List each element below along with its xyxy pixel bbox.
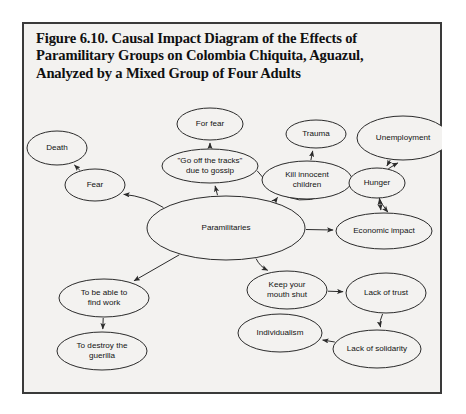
node-label-death: Death: [46, 143, 68, 152]
node-label-economic: Economic impact: [353, 226, 415, 235]
node-label-hunger: Hunger: [364, 178, 391, 187]
node-find_work[interactable]: To be able tofind work: [59, 279, 149, 317]
node-lack_trust[interactable]: Lack of trust: [346, 273, 426, 313]
edge-paramilitaries-to-kill_children: [272, 197, 278, 201]
node-label-kill_children: Kill innocent: [285, 170, 329, 179]
node-destroy[interactable]: To destroy theguerilla: [57, 332, 147, 370]
node-individualism[interactable]: Individualism: [238, 314, 322, 352]
edge-fear-to-death: [74, 165, 79, 170]
edge-unemployment-to-hunger: [387, 160, 390, 166]
node-label-lack_solidarity: Lack of solidarity: [347, 344, 408, 353]
node-label-gossip: due to gossip: [186, 166, 235, 175]
node-label-find_work: find work: [88, 298, 121, 307]
edge-paramilitaries-to-mouth_shut: [256, 259, 268, 271]
edge-lack_trust-to-lack_solidarity: [380, 314, 382, 327]
edge-mouth_shut-to-lack_trust: [328, 291, 343, 292]
node-label-individualism: Individualism: [257, 328, 304, 337]
node-label-unemployment: Unemployment: [376, 133, 431, 142]
node-label-find_work: To be able to: [81, 288, 128, 297]
node-label-paramilitaries: Paramilitaries: [201, 223, 250, 232]
node-label-lack_trust: Lack of trust: [364, 288, 409, 297]
node-unemployment[interactable]: Unemployment: [357, 116, 442, 160]
node-mouth_shut[interactable]: Keep yourmouth shut: [247, 271, 327, 309]
node-label-gossip: "Go off the tracks": [178, 156, 243, 165]
node-label-mouth_shut: Keep your: [269, 280, 306, 289]
node-lack_solidarity[interactable]: Lack of solidarity: [333, 330, 421, 368]
node-label-fear: Fear: [87, 180, 104, 189]
edge-lack_solidarity-to-individualism: [323, 340, 335, 342]
diagram-nodes: DeathFearFor fear"Go off the tracks"due …: [27, 108, 442, 370]
node-label-destroy: guerilla: [89, 351, 116, 360]
node-for_fear[interactable]: For fear: [177, 108, 243, 140]
node-kill_children[interactable]: Kill innocentchildren: [262, 161, 352, 199]
edge-paramilitaries-to-economic: [306, 230, 333, 231]
node-label-for_fear: For fear: [196, 119, 225, 128]
node-label-kill_children: children: [293, 180, 321, 189]
node-label-trauma: Trauma: [302, 129, 330, 138]
node-hunger[interactable]: Hunger: [349, 168, 405, 198]
edge-paramilitaries-to-gossip: [215, 186, 217, 195]
node-label-mouth_shut: mouth shut: [267, 290, 308, 299]
figure-page: Figure 6.10. Causal Impact Diagram of th…: [0, 0, 466, 414]
edge-paramilitaries-to-find_work: [134, 255, 179, 281]
node-fear[interactable]: Fear: [65, 169, 125, 201]
edge-kill_children-to-trauma: [311, 151, 313, 160]
node-trauma[interactable]: Trauma: [286, 120, 346, 148]
node-label-destroy: To destroy the: [77, 341, 128, 350]
node-paramilitaries[interactable]: Paramilitaries: [147, 196, 305, 260]
node-gossip[interactable]: "Go off the tracks"due to gossip: [162, 149, 258, 183]
node-economic[interactable]: Economic impact: [336, 213, 432, 249]
node-death[interactable]: Death: [27, 131, 87, 165]
edge-paramilitaries-to-fear: [124, 194, 164, 207]
causal-impact-diagram: DeathFearFor fear"Go off the tracks"due …: [22, 22, 442, 394]
